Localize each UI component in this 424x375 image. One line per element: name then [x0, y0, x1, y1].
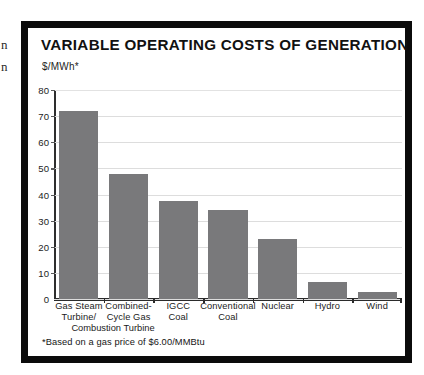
page-bleed-fragment-1: n — [1, 38, 8, 51]
y-axis-tick-label: 70 — [38, 111, 49, 122]
bar — [358, 292, 397, 299]
y-axis-tick-label: 60 — [38, 137, 49, 148]
y-axis-tick-label: 30 — [38, 215, 49, 226]
y-axis-unit-label: $/MWh* — [42, 61, 79, 72]
y-axis-tick-label: 10 — [38, 267, 49, 278]
y-axis-tick-label: 50 — [38, 163, 49, 174]
x-axis-label-line: Wind — [346, 301, 408, 312]
chart-footnote: *Based on a gas price of $6.00/MMBtu — [42, 337, 205, 347]
chart-title: VARIABLE OPERATING COSTS OF GENERATION — [41, 36, 408, 53]
gridline — [54, 299, 402, 300]
x-axis-label-line: Coal — [197, 312, 259, 323]
x-axis-label: Wind — [346, 301, 408, 312]
y-axis-tick-label: 40 — [38, 189, 49, 200]
bar — [59, 111, 98, 299]
bar — [159, 201, 198, 299]
plot-area: 01020304050607080 — [54, 90, 402, 299]
bar — [109, 174, 148, 299]
y-axis-tick-label: 20 — [38, 241, 49, 252]
screenshot-root: n n VARIABLE OPERATING COSTS OF GENERATI… — [0, 0, 424, 375]
bars-group — [54, 90, 402, 299]
figure-frame: VARIABLE OPERATING COSTS OF GENERATION $… — [21, 21, 412, 363]
bar — [308, 282, 347, 299]
x-axis-label-line: Combustion Turbine — [38, 323, 188, 334]
bar — [258, 239, 297, 299]
bar — [208, 210, 247, 299]
page-bleed-fragment-2: n — [1, 60, 8, 73]
y-axis-tick-label: 80 — [38, 85, 49, 96]
figure-inner: VARIABLE OPERATING COSTS OF GENERATION $… — [28, 28, 405, 356]
